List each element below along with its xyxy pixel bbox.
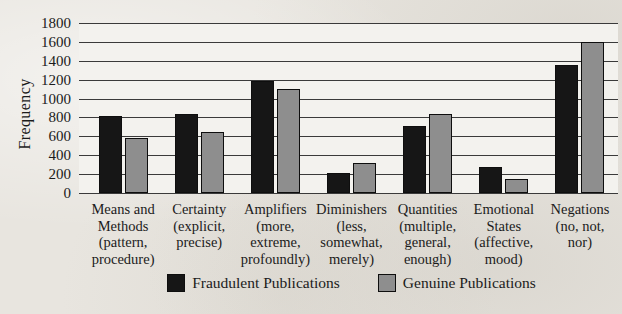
bar-group-0 — [85, 23, 161, 193]
x-axis-category-label-5: EmotionalStates(affective,mood) — [466, 201, 542, 267]
y-tick-label-1600: 1600 — [0, 35, 74, 50]
x-axis-label-line: Diminishers — [313, 201, 389, 218]
y-tick-label-400: 400 — [0, 148, 74, 163]
bar-group-2 — [237, 23, 313, 193]
x-axis-label-line: Means and — [85, 201, 161, 218]
bar-genuine-3 — [353, 163, 376, 193]
x-axis-label-line: Certainty — [161, 201, 237, 218]
x-axis-label-line: Negations — [542, 201, 618, 218]
x-axis-label-line: merely) — [313, 251, 389, 268]
x-axis-label-line: Amplifiers — [237, 201, 313, 218]
x-axis-label-line: procedure) — [85, 251, 161, 268]
x-axis-label-line: nor) — [542, 234, 618, 251]
bar-group-4 — [390, 23, 466, 193]
bar-fraudulent-0 — [99, 116, 122, 193]
legend-label: Genuine Publications — [403, 274, 536, 292]
y-tick-label-0: 0 — [0, 186, 74, 201]
legend: Fraudulent PublicationsGenuine Publicati… — [85, 274, 618, 292]
bar-fraudulent-5 — [479, 167, 502, 193]
scanned-chart-page: Frequency 180016001400120010008006004002… — [0, 0, 622, 314]
y-tick-label-1400: 1400 — [0, 54, 74, 69]
legend-item-genuine: Genuine Publications — [378, 274, 536, 292]
x-axis-label-line: profoundly) — [237, 251, 313, 268]
legend-swatch — [167, 274, 185, 292]
bar-fraudulent-1 — [175, 114, 198, 193]
bar-genuine-2 — [277, 89, 300, 193]
plot-area — [79, 23, 618, 194]
x-axis-category-label-3: Diminishers(less,somewhat,merely) — [313, 201, 389, 267]
x-axis-label-line: (less, — [313, 218, 389, 235]
x-axis-label-line: Emotional — [466, 201, 542, 218]
bar-genuine-5 — [505, 179, 528, 193]
x-axis-label-line: States — [466, 218, 542, 235]
x-axis-label-line: precise) — [161, 234, 237, 251]
legend-swatch — [378, 274, 396, 292]
bar-genuine-0 — [125, 138, 148, 193]
bar-group-6 — [542, 23, 618, 193]
x-axis-category-label-6: Negations(no, not,nor) — [542, 201, 618, 267]
gridline-0 — [79, 193, 618, 194]
x-axis-label-line: (pattern, — [85, 234, 161, 251]
bar-fraudulent-4 — [403, 126, 426, 193]
bar-group-1 — [161, 23, 237, 193]
y-tick-label-1000: 1000 — [0, 92, 74, 107]
legend-item-fraudulent: Fraudulent Publications — [167, 274, 340, 292]
y-tick-label-1800: 1800 — [0, 16, 74, 31]
legend-label: Fraudulent Publications — [192, 274, 340, 292]
bar-fraudulent-2 — [251, 81, 274, 193]
x-axis-label-line: somewhat, — [313, 234, 389, 251]
bar-genuine-1 — [201, 132, 224, 193]
x-axis-label-line: general, — [390, 234, 466, 251]
x-axis-label-line: enough) — [390, 251, 466, 268]
x-axis-category-label-4: Quantities(multiple,general,enough) — [390, 201, 466, 267]
x-axis-label-line: Quantities — [390, 201, 466, 218]
y-tick-label-1200: 1200 — [0, 73, 74, 88]
y-tick-label-200: 200 — [0, 167, 74, 182]
x-axis-label-line: mood) — [466, 251, 542, 268]
x-axis-label-line: (explicit, — [161, 218, 237, 235]
bar-genuine-6 — [581, 42, 604, 193]
y-axis-ticks: 180016001400120010008006004002000 — [0, 23, 74, 194]
bar-groups — [85, 23, 618, 193]
bar-fraudulent-3 — [327, 173, 350, 193]
x-axis-label-line: (affective, — [466, 234, 542, 251]
bar-group-3 — [313, 23, 389, 193]
bar-group-5 — [466, 23, 542, 193]
y-tick-label-600: 600 — [0, 129, 74, 144]
y-tick-label-800: 800 — [0, 110, 74, 125]
x-axis-category-label-2: Amplifiers(more,extreme,profoundly) — [237, 201, 313, 267]
x-axis-label-line: Methods — [85, 218, 161, 235]
x-axis-category-label-0: Means andMethods(pattern,procedure) — [85, 201, 161, 267]
x-axis-category-label-1: Certainty(explicit,precise) — [161, 201, 237, 267]
x-axis-label-line: (more, — [237, 218, 313, 235]
x-axis-label-line: (no, not, — [542, 218, 618, 235]
x-axis-labels: Means andMethods(pattern,procedure)Certa… — [85, 201, 618, 267]
bar-fraudulent-6 — [555, 65, 578, 193]
x-axis-label-line: (multiple, — [390, 218, 466, 235]
bar-genuine-4 — [429, 114, 452, 193]
x-axis-label-line: extreme, — [237, 234, 313, 251]
